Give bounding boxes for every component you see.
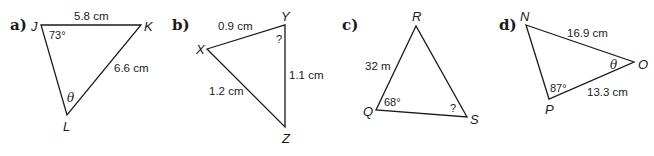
triangle-problems-figure: a) J K L 5.8 cm 6.6 cm 73° θ b) X Y Z 0.… — [0, 0, 654, 156]
vertex-s: S — [470, 112, 479, 127]
vertex-o: O — [638, 57, 648, 72]
side-kl-length: 6.6 cm — [114, 62, 149, 74]
problem-a-label: a) — [10, 16, 27, 34]
vertex-r: R — [412, 9, 421, 24]
problem-b: b) X Y Z 0.9 cm 1.1 cm 1.2 cm ? — [172, 9, 324, 146]
problem-a: a) J K L 5.8 cm 6.6 cm 73° θ — [10, 10, 154, 134]
vertex-j: J — [30, 19, 38, 34]
vertex-p: P — [545, 102, 554, 117]
problem-c: c) R Q S 32 m 68° ? — [342, 9, 479, 127]
vertex-n: N — [520, 9, 530, 24]
angle-s-unknown: ? — [450, 102, 456, 114]
problem-c-label: c) — [342, 16, 358, 34]
angle-o-theta: θ — [610, 58, 618, 72]
angle-j: 73° — [49, 29, 66, 41]
vertex-x: X — [195, 42, 206, 57]
angle-p: 87° — [550, 82, 567, 94]
vertex-q: Q — [363, 104, 373, 119]
problem-b-label: b) — [172, 16, 190, 34]
angle-l-theta: θ — [67, 91, 75, 105]
side-jk-length: 5.8 cm — [74, 10, 109, 22]
problem-d: d) N O P 16.9 cm 13.3 cm 87° θ — [499, 9, 648, 117]
problem-d-label: d) — [499, 16, 517, 34]
side-xz-length: 1.2 cm — [209, 85, 244, 97]
side-no-length: 16.9 cm — [567, 27, 608, 39]
side-po-length: 13.3 cm — [587, 86, 628, 98]
angle-y-unknown: ? — [276, 33, 282, 45]
vertex-l: L — [63, 119, 70, 134]
side-xy-length: 0.9 cm — [218, 20, 253, 32]
side-yz-length: 1.1 cm — [289, 69, 324, 81]
vertex-y: Y — [281, 9, 291, 24]
side-qr-length: 32 m — [365, 60, 391, 72]
vertex-k: K — [144, 19, 154, 34]
vertex-z: Z — [281, 131, 291, 146]
angle-q: 68° — [384, 96, 401, 108]
triangle-xyz — [207, 25, 285, 127]
